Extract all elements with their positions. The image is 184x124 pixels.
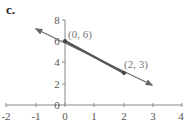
y-tick-label: 0 <box>54 99 60 111</box>
data-point <box>63 39 67 43</box>
panel-label: c. <box>6 2 15 17</box>
point-annotation: (2, 3) <box>124 58 148 71</box>
y-tick-label: 2 <box>54 78 60 90</box>
x-tick-label: 0 <box>62 110 68 122</box>
x-tick-label: 2 <box>121 110 127 122</box>
line-graph: c. -2 -1 0 1 2 3 4 0 2 4 6 8 <box>0 0 184 124</box>
y-tick-label: 6 <box>54 35 60 47</box>
x-tick-label: -1 <box>31 110 40 122</box>
x-tick-label: 4 <box>178 110 184 122</box>
x-tick-label: 1 <box>91 110 97 122</box>
y-tick-label: 4 <box>54 56 60 68</box>
x-tick-label: 3 <box>150 110 156 122</box>
y-axis: 0 2 4 6 8 <box>54 14 65 111</box>
x-tick-label: -2 <box>1 110 10 122</box>
x-axis: -2 -1 0 1 2 3 4 <box>1 103 184 122</box>
point-annotation: (0, 6) <box>68 28 92 41</box>
data-point <box>122 71 126 75</box>
y-tick-label: 8 <box>54 14 60 26</box>
